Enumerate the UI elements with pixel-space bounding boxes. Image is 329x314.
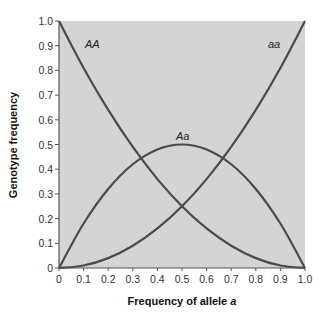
curve-label-aa: aa — [268, 38, 280, 50]
y-tick-label: 0 — [47, 262, 53, 274]
y-tick-label: 0.1 — [38, 237, 53, 249]
y-tick-label: 0.5 — [38, 139, 53, 151]
y-tick-label: 0.7 — [38, 89, 53, 101]
x-tick-label: 0.7 — [224, 273, 239, 285]
y-tick-label: 0.4 — [38, 163, 53, 175]
y-tick-label: 1.0 — [38, 15, 53, 27]
y-tick-label: 0.6 — [38, 114, 53, 126]
y-tick-label: 0.3 — [38, 188, 53, 200]
x-tick-label: 1.0 — [298, 273, 313, 285]
x-axis-ticks: 00.10.20.30.40.50.60.70.80.91.0 — [56, 268, 312, 285]
x-tick-label: 0.4 — [150, 273, 165, 285]
y-axis-label: Genotype frequency — [7, 91, 19, 198]
y-tick-label: 0.9 — [38, 40, 53, 52]
x-axis-label: Frequency of allele a — [128, 295, 237, 307]
x-tick-label: 0.9 — [273, 273, 288, 285]
x-tick-label: 0.8 — [248, 273, 263, 285]
x-tick-label: 0 — [56, 273, 62, 285]
curve-label-Aa: Aa — [175, 130, 189, 142]
x-tick-label: 0.5 — [175, 273, 190, 285]
x-tick-label: 0.2 — [101, 273, 116, 285]
x-tick-label: 0.6 — [199, 273, 214, 285]
curve-label-AA: AA — [84, 38, 100, 50]
y-tick-label: 0.2 — [38, 213, 53, 225]
x-tick-label: 0.3 — [125, 273, 140, 285]
x-tick-label: 0.1 — [76, 273, 91, 285]
y-tick-label: 0.8 — [38, 64, 53, 76]
genotype-frequency-chart: 00.10.20.30.40.50.60.70.80.91.0 00.10.20… — [0, 0, 329, 314]
y-axis-ticks: 00.10.20.30.40.50.60.70.80.91.0 — [38, 15, 59, 274]
